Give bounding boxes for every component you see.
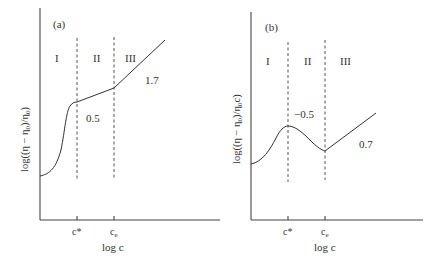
panel-b: (b) I II III −0.5 0.7 c* ce log c log((η… <box>231 12 423 253</box>
region-label-ii: II <box>304 55 312 67</box>
y-axis-label: log((η − η0)/η0c) <box>231 94 244 164</box>
diagram-canvas: (a) I II III 0.5 1.7 c* ce log c log((η … <box>0 0 440 263</box>
slope-label-ii: 0.5 <box>86 112 100 124</box>
slope-label-iii: 1.7 <box>145 74 159 86</box>
panel-label: (b) <box>265 21 278 34</box>
tick-label-cstar: c* <box>283 226 292 237</box>
reduced-viscosity-curve <box>251 113 376 164</box>
x-axis-label: log c <box>102 241 124 253</box>
tick-label-ce: ce <box>321 226 329 239</box>
tick-label-cstar: c* <box>72 226 81 237</box>
slope-label-iii: 0.7 <box>359 138 373 150</box>
region-label-iii: III <box>340 55 351 67</box>
panel-a: (a) I II III 0.5 1.7 c* ce log c log((η … <box>19 8 220 253</box>
region-label-iii: III <box>125 52 136 64</box>
panel-label: (a) <box>53 18 66 31</box>
slope-label-ii: −0.5 <box>294 108 314 120</box>
region-label-ii: II <box>93 52 101 64</box>
viscosity-curve <box>40 40 165 176</box>
tick-label-ce: ce <box>110 226 118 239</box>
region-label-i: I <box>55 52 59 64</box>
region-label-i: I <box>266 55 270 67</box>
x-axis-label: log c <box>314 241 336 253</box>
y-axis-label: log((η − η0)/η0) <box>19 107 32 172</box>
